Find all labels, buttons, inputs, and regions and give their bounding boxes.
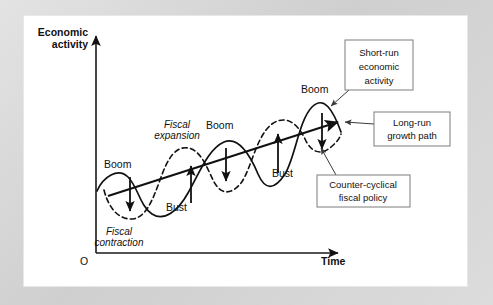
callout-long-run-growth-path: Long-run growth path <box>345 112 450 146</box>
counter-cyclical-callout-line1: Counter-cyclical <box>329 179 397 190</box>
long-run-leader-line <box>345 122 374 124</box>
phase-label-boom-1: Boom <box>104 158 132 170</box>
counter-cyclical-policy-curve <box>104 120 341 219</box>
short-run-callout-line3: activity <box>364 75 393 86</box>
long-run-callout-line1: Long-run <box>393 117 431 128</box>
x-axis-label: Time <box>321 255 345 267</box>
axis-group <box>96 36 338 253</box>
business-cycle-diagram: Economic activity Time O Boom Bust Boom … <box>0 0 493 305</box>
origin-label: O <box>80 255 88 267</box>
y-axis-label-line2: activity <box>52 38 88 50</box>
figure-frame: Economic activity Time O Boom Bust Boom … <box>0 0 493 305</box>
fiscal-expansion-label-line2: expansion <box>154 130 200 141</box>
fiscal-expansion-label-line1: Fiscal <box>164 119 191 130</box>
counter-cyclical-leader-line <box>321 148 336 175</box>
counter-cyclical-callout-line2: fiscal policy <box>339 192 388 203</box>
fiscal-contraction-label-line1: Fiscal <box>106 226 133 237</box>
phase-label-boom-3: Boom <box>301 83 329 95</box>
fiscal-contraction-label-line2: contraction <box>95 237 144 248</box>
phase-label-boom-2: Boom <box>206 119 234 131</box>
y-axis-label-line1: Economic <box>38 26 88 38</box>
short-run-leader-line <box>331 90 349 106</box>
callout-counter-cyclical-fiscal-policy: Counter-cyclical fiscal policy <box>317 148 410 207</box>
phase-label-bust-2: Bust <box>272 167 293 179</box>
short-run-callout-line1: Short-run <box>359 47 399 58</box>
phase-label-bust-1: Bust <box>166 201 187 213</box>
short-run-callout-line2: economic <box>359 61 400 72</box>
long-run-callout-line2: growth path <box>387 130 437 141</box>
long-run-growth-path-line <box>108 122 338 196</box>
callout-short-run-economic-activity: Short-run economic activity <box>331 40 413 106</box>
